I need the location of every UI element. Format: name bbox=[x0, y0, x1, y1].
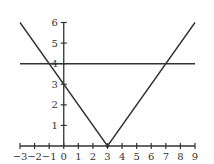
x-tick-label: 6 bbox=[148, 151, 154, 162]
tick-labels: −3−2−10123456789123456 bbox=[13, 17, 199, 162]
x-tick-label: 9 bbox=[192, 151, 198, 162]
y-tick-label: 4 bbox=[51, 58, 57, 69]
x-tick-label: 1 bbox=[75, 151, 81, 162]
x-tick-label: −2 bbox=[27, 151, 42, 162]
x-tick-label: 5 bbox=[133, 151, 139, 162]
y-tick-label: 1 bbox=[51, 120, 57, 131]
x-tick-label: 2 bbox=[90, 151, 96, 162]
series-group bbox=[20, 23, 195, 148]
x-tick-label: 3 bbox=[104, 151, 110, 162]
x-tick-label: 7 bbox=[163, 151, 169, 162]
axes bbox=[20, 23, 195, 150]
abs-value-line bbox=[20, 23, 195, 147]
x-tick-label: −3 bbox=[13, 151, 28, 162]
y-tick-label: 3 bbox=[51, 79, 57, 90]
x-tick-label: 4 bbox=[119, 151, 125, 162]
y-tick-label: 2 bbox=[51, 99, 57, 110]
vertex-point bbox=[106, 144, 110, 148]
y-tick-label: 5 bbox=[51, 38, 57, 49]
x-tick-label: −1 bbox=[42, 151, 57, 162]
y-tick-label: 6 bbox=[51, 17, 57, 28]
x-tick-label: 0 bbox=[61, 151, 67, 162]
x-tick-label: 8 bbox=[177, 151, 183, 162]
chart-canvas: −3−2−10123456789123456 bbox=[0, 0, 214, 164]
